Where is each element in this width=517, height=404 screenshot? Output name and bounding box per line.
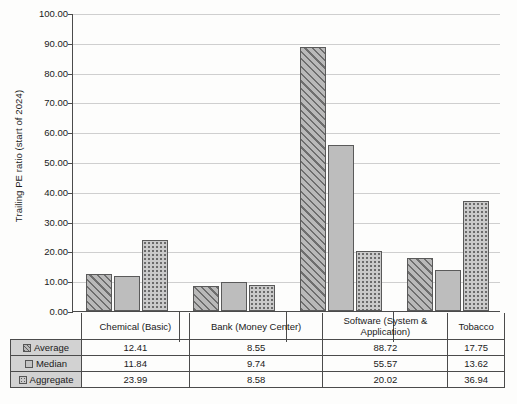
y-axis-tick-label: 60.00 <box>24 128 68 137</box>
y-axis-tick-label: 100.00 <box>24 9 68 18</box>
y-axis-tick-mark <box>68 74 73 75</box>
category-label: Tobacco <box>450 321 502 332</box>
category-header-cell: Bank (Money Center) <box>189 313 323 340</box>
bar-group <box>73 14 180 311</box>
category-header-cell: Chemical (Basic) <box>82 313 190 340</box>
bar-group <box>394 14 501 311</box>
y-axis-tick-label: 20.00 <box>24 247 68 256</box>
bar <box>249 285 275 311</box>
table-corner-cell <box>11 313 82 340</box>
legend-series-label: Median <box>36 358 67 369</box>
category-label: Bank (Money Center) <box>192 321 321 332</box>
plot-region: Trailing PE ratio (start of 2024) 0.0010… <box>0 0 517 316</box>
legend-series-label: Average <box>34 342 69 353</box>
bar <box>114 276 140 311</box>
legend-swatch-icon <box>25 360 33 368</box>
category-label: Chemical (Basic) <box>84 321 187 332</box>
table-value-cell: 36.94 <box>448 372 505 388</box>
legend-cell-average: Average <box>11 340 82 356</box>
y-axis-tick-mark <box>68 44 73 45</box>
y-axis-tick-mark <box>68 252 73 253</box>
bar <box>142 240 168 311</box>
chart-figure: Trailing PE ratio (start of 2024) 0.0010… <box>0 0 517 404</box>
table-value-cell: 23.99 <box>82 372 190 388</box>
table-value-cell: 88.72 <box>323 340 448 356</box>
bar-group <box>180 14 287 311</box>
table-value-cell: 9.74 <box>189 356 323 372</box>
y-axis-tick-mark <box>68 103 73 104</box>
y-axis-tick-labels: 0.0010.0020.0030.0040.0050.0060.0070.008… <box>20 0 68 316</box>
y-axis-tick-mark <box>68 133 73 134</box>
table-row: Aggregate23.998.5820.0236.94 <box>11 372 505 388</box>
y-axis-tick-label: 10.00 <box>24 277 68 286</box>
legend-cell-median: Median <box>11 356 82 372</box>
table-value-cell: 12.41 <box>82 340 190 356</box>
y-axis-tick-label: 90.00 <box>24 39 68 48</box>
table-value-cell: 17.75 <box>448 340 505 356</box>
y-axis-tick-label: 80.00 <box>24 69 68 78</box>
bar <box>86 274 112 311</box>
bar <box>300 47 326 311</box>
table-value-cell: 8.55 <box>189 340 323 356</box>
y-axis-tick-mark <box>68 163 73 164</box>
bar <box>356 251 382 311</box>
legend-swatch-icon <box>23 344 31 352</box>
table-header-row: Chemical (Basic)Bank (Money Center)Softw… <box>11 313 505 340</box>
y-axis-tick-label: 50.00 <box>24 158 68 167</box>
table-value-cell: 8.58 <box>189 372 323 388</box>
y-axis-tick-mark <box>68 14 73 15</box>
table-value-cell: 13.62 <box>448 356 505 372</box>
category-label: Software (System & <box>325 315 445 326</box>
y-axis-tick-label: 70.00 <box>24 98 68 107</box>
bar-group <box>287 14 394 311</box>
category-header-cell: Tobacco <box>448 313 505 340</box>
y-axis-tick-mark <box>68 223 73 224</box>
bar <box>193 286 219 311</box>
plot-area <box>72 14 500 312</box>
bar <box>435 270 461 311</box>
category-label-line2: Application) <box>325 326 445 337</box>
bar <box>221 282 247 311</box>
category-header-cell: Software (System &Application) <box>323 313 448 340</box>
y-axis-tick-label: 30.00 <box>24 218 68 227</box>
y-axis-tick-mark <box>68 282 73 283</box>
bar <box>328 145 354 311</box>
table-value-cell: 11.84 <box>82 356 190 372</box>
bar <box>407 258 433 311</box>
table-value-cell: 20.02 <box>323 372 448 388</box>
table-row: Median11.849.7455.5713.62 <box>11 356 505 372</box>
data-table: Chemical (Basic)Bank (Money Center)Softw… <box>10 313 505 388</box>
y-axis-tick-label: 40.00 <box>24 188 68 197</box>
bar <box>463 201 489 311</box>
legend-swatch-icon <box>19 376 27 384</box>
legend-cell-aggregate: Aggregate <box>11 372 82 388</box>
y-axis-tick-mark <box>68 193 73 194</box>
legend-series-label: Aggregate <box>30 374 74 385</box>
table-row: Average12.418.5588.7217.75 <box>11 340 505 356</box>
table-value-cell: 55.57 <box>323 356 448 372</box>
